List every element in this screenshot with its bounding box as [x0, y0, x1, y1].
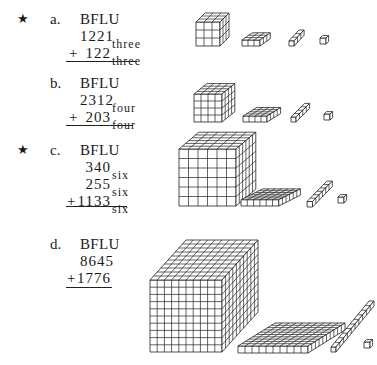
block-unit-b [324, 112, 333, 120]
block-long-b [291, 103, 310, 122]
block-cube-c [179, 132, 256, 206]
block-unit-a [320, 36, 329, 44]
block-unit-d [364, 340, 373, 348]
block-long-c [307, 181, 332, 207]
block-cube-d [150, 240, 258, 352]
block-long-a [289, 30, 304, 46]
block-cube-a [196, 13, 229, 46]
block-unit-c [338, 195, 347, 203]
block-flat-d [238, 323, 345, 353]
block-flat-b [243, 108, 281, 122]
block-flat-a [242, 33, 270, 46]
block-cube-b [194, 84, 235, 122]
base-blocks-illustration [0, 0, 377, 365]
